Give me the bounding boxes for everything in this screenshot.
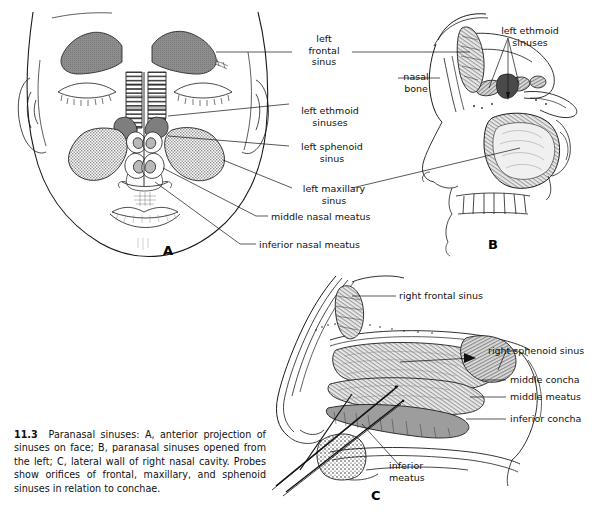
label-left-ethmoid-sinuses-line1: left ethmoid — [293, 105, 367, 117]
label-left-frontal-sinus-line1: left — [295, 33, 353, 45]
panel-letter-c: C — [371, 488, 381, 503]
ethmoid-cell-b4 — [530, 76, 546, 88]
label-left-ethmoid-sinuses: left ethmoid sinuses — [293, 105, 367, 128]
label-left-ethmoid-sinuses-line2: sinuses — [293, 117, 367, 129]
leader-left-maxillary-sinus — [223, 160, 292, 188]
panel-a-artwork — [18, 12, 268, 257]
label-b-left-ethmoid-sinuses: left ethmoid sinuses — [492, 25, 568, 48]
label-right-sphenoid-sinus-line1: right sphenoid sinus — [488, 345, 584, 357]
label-left-sphenoid-sinus: left sphenoid sinus — [293, 141, 371, 164]
figure-caption-text: Paranasal sinuses: A, anterior projectio… — [14, 429, 266, 494]
label-inferior-meatus-line1: inferior — [389, 460, 425, 472]
label-left-maxillary-sinus: left maxillary sinus — [295, 183, 373, 206]
label-inferior-meatus-line2: meatus — [389, 472, 425, 484]
label-left-frontal-sinus-line2: frontal — [295, 45, 353, 57]
label-middle-nasal-meatus-line1: middle nasal meatus — [271, 211, 370, 223]
frontal-sinus-left-shape — [61, 32, 122, 74]
label-right-sphenoid-sinus: right sphenoid sinus — [488, 345, 584, 357]
label-left-maxillary-sinus-line2: sinus — [295, 195, 373, 207]
label-nasal-bone-line2: bone — [396, 83, 436, 95]
label-inferior-meatus: inferior meatus — [389, 460, 425, 483]
panel-letter-b: B — [488, 237, 498, 252]
label-nasal-bone-line1: nasal — [396, 71, 436, 83]
label-inferior-nasal-meatus-line1: inferior nasal meatus — [259, 239, 360, 251]
maxillary-sinus-right-shape — [165, 128, 225, 181]
label-left-maxillary-sinus-line1: left maxillary — [295, 183, 373, 195]
right-frontal-sinus-shape — [335, 286, 363, 339]
label-inferior-concha: inferior concha — [510, 413, 581, 425]
figure-number: 11.3 — [14, 429, 38, 440]
maxillary-sinus-left-shape — [68, 128, 127, 180]
label-left-frontal-sinus-line3: sinus — [295, 56, 353, 68]
label-left-sphenoid-sinus-line2: sinus — [293, 153, 371, 165]
frontal-sinus-right-shape — [152, 31, 216, 74]
label-inferior-nasal-meatus: inferior nasal meatus — [259, 239, 360, 251]
leader-left-ethmoid-sinuses — [168, 104, 289, 116]
label-middle-meatus-line1: middle meatus — [510, 391, 581, 403]
label-middle-meatus: middle meatus — [510, 391, 581, 403]
leader-inferior-nasal-meatus — [155, 182, 240, 244]
panel-b-artwork — [422, 14, 576, 256]
label-inferior-concha-line1: inferior concha — [510, 413, 581, 425]
label-middle-concha-line1: middle concha — [510, 374, 580, 386]
label-right-frontal-sinus-line1: right frontal sinus — [399, 290, 483, 302]
label-middle-concha: middle concha — [510, 374, 580, 386]
label-b-left-ethmoid-sinuses-line2: sinuses — [492, 37, 568, 49]
label-middle-nasal-meatus: middle nasal meatus — [271, 211, 370, 223]
figure-caption: 11.3 Paranasal sinuses: A, anterior proj… — [14, 428, 266, 495]
panel-letter-a: A — [163, 243, 173, 258]
label-nasal-bone: nasal bone — [396, 71, 436, 94]
label-left-sphenoid-sinus-line1: left sphenoid — [293, 141, 371, 153]
label-b-left-ethmoid-sinuses-line1: left ethmoid — [492, 25, 568, 37]
label-left-frontal-sinus: left frontal sinus — [295, 33, 353, 68]
label-right-frontal-sinus: right frontal sinus — [399, 290, 483, 302]
